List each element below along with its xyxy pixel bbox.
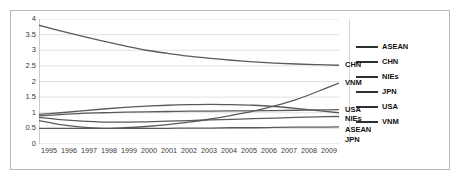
legend-item-jpn[interactable]: JPN xyxy=(356,84,448,99)
x-tick-label: 2000 xyxy=(139,147,159,161)
x-tick-label: 2009 xyxy=(319,147,339,161)
legend-label: ASEAN xyxy=(382,43,408,51)
x-tick-label: 2008 xyxy=(299,147,319,161)
y-tick-label: 2 xyxy=(32,78,36,86)
figure-frame: 00.511.522.533.54 1995199619971998199920… xyxy=(10,10,450,170)
x-tick-label: 1995 xyxy=(39,147,59,161)
legend-item-usa[interactable]: USA xyxy=(356,99,448,114)
x-tick-label: 1998 xyxy=(99,147,119,161)
series-line-chn xyxy=(39,25,339,65)
x-tick-label: 2003 xyxy=(199,147,219,161)
y-axis: 00.511.522.533.54 xyxy=(11,19,36,144)
legend-swatch-icon xyxy=(356,46,378,48)
y-tick-label: 1 xyxy=(32,109,36,117)
line-chart: 00.511.522.533.54 1995199619971998199920… xyxy=(11,11,451,171)
legend-label: NIEs xyxy=(382,73,399,81)
series-end-label-usa: USA xyxy=(345,106,361,114)
legend-item-chn[interactable]: CHN xyxy=(356,54,448,69)
chart-legend: ASEANCHNNIEsJPNUSAVNM xyxy=(356,39,448,129)
plot-area xyxy=(39,19,339,144)
x-tick-label: 1996 xyxy=(59,147,79,161)
series-end-label-vnm: VNM xyxy=(345,79,362,87)
y-tick-label: 3 xyxy=(32,46,36,54)
series-end-label-asean: ASEAN xyxy=(345,126,371,134)
x-tick-label: 1997 xyxy=(79,147,99,161)
series-line-asean xyxy=(39,117,339,123)
y-tick-label: 1.5 xyxy=(26,93,36,101)
y-tick-label: 0 xyxy=(32,140,36,148)
y-tick-label: 4 xyxy=(32,15,36,23)
x-tick-label: 1999 xyxy=(119,147,139,161)
x-tick-label: 2005 xyxy=(239,147,259,161)
series-end-label-chn: CHN xyxy=(345,61,361,69)
legend-label: VNM xyxy=(382,118,399,126)
legend-swatch-icon xyxy=(356,91,378,93)
legend-label: CHN xyxy=(382,58,398,66)
x-axis: 1995199619971998199920002001200220032004… xyxy=(39,147,339,161)
x-tick-label: 2006 xyxy=(259,147,279,161)
legend-label: USA xyxy=(382,103,398,111)
x-tick-label: 2007 xyxy=(279,147,299,161)
legend-label: JPN xyxy=(382,88,397,96)
x-tick-label: 2001 xyxy=(159,147,179,161)
legend-item-asean[interactable]: ASEAN xyxy=(356,39,448,54)
x-tick-label: 2004 xyxy=(219,147,239,161)
y-tick-label: 3.5 xyxy=(26,31,36,39)
x-tick-label: 2002 xyxy=(179,147,199,161)
y-tick-label: 0.5 xyxy=(26,124,36,132)
series-end-label-jpn: JPN xyxy=(345,136,360,144)
screenshot-root: 00.511.522.533.54 1995199619971998199920… xyxy=(0,0,459,180)
plot-svg xyxy=(39,19,339,144)
series-end-label-nies: NIEs xyxy=(345,115,362,123)
legend-item-nies[interactable]: NIEs xyxy=(356,69,448,84)
y-tick-label: 2.5 xyxy=(26,62,36,70)
